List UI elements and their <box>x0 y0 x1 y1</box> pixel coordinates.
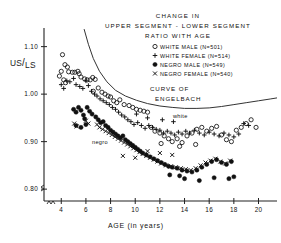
data-point-white-male <box>59 69 63 73</box>
data-point-white-female <box>160 117 165 122</box>
data-point-white-female <box>59 82 64 87</box>
data-point-negro-male <box>79 108 83 112</box>
legend-item-white-female: WHITE FEMALE (N=514) <box>160 53 231 59</box>
data-point-white-male <box>194 142 198 146</box>
data-point-white-male <box>185 134 189 138</box>
data-point-negro-female <box>170 153 174 157</box>
data-point-white-female <box>212 132 217 137</box>
legend-item-white-male: WHITE MALE (N=501) <box>160 44 223 50</box>
y-tick-label: 0.80 <box>12 185 38 192</box>
data-point-white-male <box>224 138 228 142</box>
data-point-white-male <box>122 102 126 106</box>
data-point-negro-male <box>168 173 172 177</box>
data-point-negro-male <box>178 174 182 178</box>
data-point-white-female <box>246 123 251 128</box>
x-tick-label: 6 <box>79 206 93 213</box>
annotation-curve-of: CURVE OF <box>150 85 189 92</box>
data-point-negro-female <box>121 154 125 158</box>
legend-symbol-white-female <box>153 53 158 58</box>
data-point-white-male <box>239 125 243 129</box>
data-point-negro-female <box>133 156 137 160</box>
data-point-white-male <box>254 125 258 129</box>
data-point-white-female <box>61 86 66 91</box>
data-point-negro-male <box>85 105 89 109</box>
x-tick-label: 20 <box>252 206 266 213</box>
data-point-white-male <box>88 78 92 82</box>
data-point-white-male <box>178 144 182 148</box>
data-point-negro-male <box>227 177 231 181</box>
data-point-white-male <box>96 86 100 90</box>
data-point-white-male <box>200 125 204 129</box>
data-point-white-male <box>214 124 218 128</box>
data-point-negro-male <box>74 110 78 114</box>
data-point-white-male <box>118 98 122 102</box>
inline-label-white: white <box>173 113 188 119</box>
y-axis-label: US/LS <box>10 57 36 70</box>
data-point-white-female <box>143 126 148 131</box>
data-point-negro-male <box>197 178 201 182</box>
y-axis-label-numerator: US <box>10 58 22 68</box>
data-point-white-male <box>166 137 170 141</box>
data-point-white-female <box>227 133 232 138</box>
legend-symbol-white-male <box>153 44 157 48</box>
data-point-white-female <box>145 116 150 121</box>
chart-figure: CHANGE IN UPPER SEGMENT - LOWER SEGMENT … <box>0 0 281 243</box>
data-point-white-male <box>210 126 214 130</box>
data-point-negro-male <box>212 176 216 180</box>
y-tick-label: 1.10 <box>12 43 38 50</box>
data-point-white-male <box>170 140 174 144</box>
legend-item-negro-female: NEGRO FEMALE (N=540) <box>160 71 233 77</box>
data-point-negro-male <box>121 134 125 138</box>
chart-title-line-3: RATIO WITH AGE <box>78 32 278 39</box>
legend-symbol-negro-male <box>153 62 157 66</box>
data-point-white-female <box>89 89 94 94</box>
y-axis-label-denominator: LS <box>25 60 36 70</box>
data-point-white-male <box>229 140 233 144</box>
inline-label-negro: negro <box>92 139 108 145</box>
x-tick-label: 8 <box>104 206 118 213</box>
annotation-engelbach: ENGELBACH <box>155 95 201 102</box>
x-axis-title: AGE (in years) <box>108 222 164 229</box>
x-tick-label: 10 <box>128 206 142 213</box>
data-point-white-male <box>249 118 253 122</box>
data-point-white-female <box>139 123 144 128</box>
x-tick-label: 4 <box>54 206 68 213</box>
chart-title-line-1: CHANGE IN <box>78 12 278 19</box>
data-point-white-female <box>65 79 70 84</box>
chart-title-line-2: UPPER SEGMENT - LOWER SEGMENT <box>78 22 278 29</box>
data-point-white-female <box>71 76 76 81</box>
data-point-white-male <box>63 63 67 67</box>
legend-symbol-negro-female <box>153 72 157 76</box>
x-tick-label: 12 <box>153 206 167 213</box>
y-tick-label: 1.00 <box>12 90 38 97</box>
data-point-white-female <box>171 119 176 124</box>
x-tick-label: 16 <box>202 206 216 213</box>
data-point-white-female <box>84 79 89 84</box>
data-point-white-female <box>232 135 237 140</box>
data-point-white-male <box>159 141 163 145</box>
x-tick-label: 18 <box>227 206 241 213</box>
x-tick-label: 14 <box>178 206 192 213</box>
data-point-negro-male <box>101 120 105 124</box>
data-point-negro-male <box>90 112 94 116</box>
data-point-white-female <box>222 131 227 136</box>
data-point-white-male <box>195 127 199 131</box>
data-point-white-female <box>116 110 121 115</box>
data-point-white-male <box>65 65 69 69</box>
data-point-negro-male <box>79 125 83 129</box>
data-point-white-female <box>68 79 73 84</box>
data-point-white-female <box>86 83 91 88</box>
data-point-negro-male <box>232 175 236 179</box>
data-point-negro-female <box>146 149 150 153</box>
data-point-negro-male <box>182 177 186 181</box>
data-point-white-female <box>217 134 222 139</box>
data-point-white-male <box>60 53 64 57</box>
data-point-white-male <box>205 129 209 133</box>
y-tick-label: 0.90 <box>12 138 38 145</box>
data-point-white-male <box>180 140 184 144</box>
data-point-white-female <box>134 112 139 117</box>
data-point-white-male <box>57 74 61 78</box>
data-point-white-female <box>192 128 197 133</box>
legend-item-negro-male: NEGRO MALE (N=549) <box>160 62 225 68</box>
data-point-white-male <box>175 137 179 141</box>
